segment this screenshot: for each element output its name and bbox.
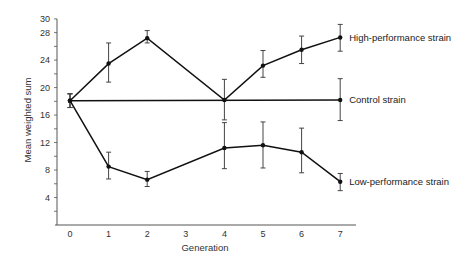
y-tick-label: 30 bbox=[40, 14, 50, 24]
series-low-performance-strain bbox=[68, 94, 343, 191]
series-line bbox=[70, 37, 340, 100]
x-axis-title: Generation bbox=[181, 242, 228, 253]
x-tick-label: 6 bbox=[299, 229, 304, 239]
line-chart: 48121620242830 01234567 Mean weighted su… bbox=[0, 0, 468, 268]
data-point bbox=[261, 143, 265, 147]
data-point bbox=[145, 177, 149, 181]
series-line bbox=[70, 100, 340, 101]
series-high-performance-strain bbox=[68, 24, 343, 119]
y-tick-label: 16 bbox=[40, 110, 50, 120]
y-tick-label: 20 bbox=[40, 83, 50, 93]
x-tick-label: 2 bbox=[145, 229, 150, 239]
y-tick-label: 8 bbox=[45, 165, 50, 175]
x-tick-label: 3 bbox=[183, 229, 188, 239]
series-labels: High-performance strainControl strainLow… bbox=[349, 32, 451, 187]
data-point bbox=[145, 36, 149, 40]
data-point bbox=[338, 98, 342, 102]
data-point bbox=[68, 98, 72, 102]
data-series bbox=[68, 24, 343, 190]
data-point bbox=[299, 150, 303, 154]
chart-axes bbox=[55, 19, 356, 225]
y-tick-label: 4 bbox=[45, 193, 50, 203]
series-line bbox=[70, 101, 340, 182]
series-label: Low-performance strain bbox=[349, 176, 449, 187]
y-tick-label: 24 bbox=[40, 55, 50, 65]
x-tick-label: 7 bbox=[338, 229, 343, 239]
series-label: High-performance strain bbox=[349, 32, 451, 43]
x-tick-label: 0 bbox=[67, 229, 72, 239]
data-point bbox=[338, 35, 342, 39]
data-point bbox=[106, 164, 110, 168]
x-axis-ticks: 01234567 bbox=[67, 229, 342, 239]
x-tick-label: 4 bbox=[222, 229, 227, 239]
x-tick-label: 1 bbox=[106, 229, 111, 239]
data-point bbox=[222, 146, 226, 150]
y-axis-title: Mean weighted sum bbox=[22, 77, 33, 162]
y-tick-label: 28 bbox=[40, 28, 50, 38]
data-point bbox=[338, 180, 342, 184]
series-label: Control strain bbox=[349, 94, 406, 105]
y-axis-ticks: 48121620242830 bbox=[40, 14, 57, 211]
y-tick-label: 12 bbox=[40, 138, 50, 148]
data-point bbox=[106, 61, 110, 65]
data-point bbox=[261, 63, 265, 67]
data-point bbox=[299, 48, 303, 52]
x-tick-label: 5 bbox=[260, 229, 265, 239]
